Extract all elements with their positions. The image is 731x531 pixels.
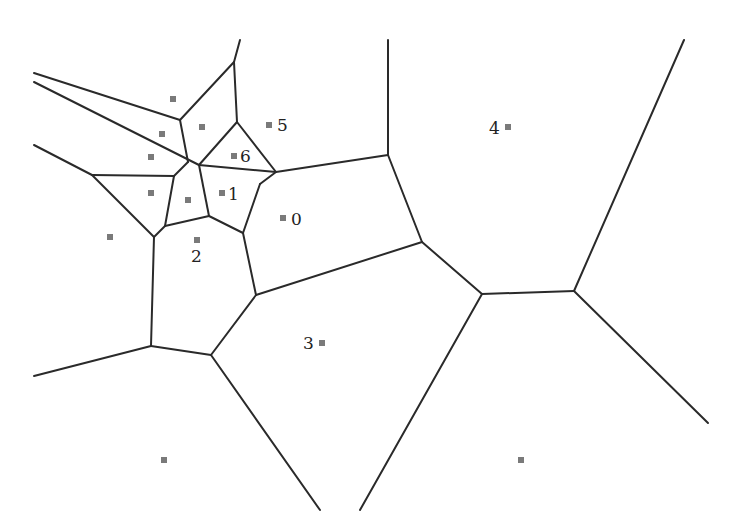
voronoi-edge xyxy=(154,226,165,237)
site-point xyxy=(170,96,176,102)
site-point xyxy=(280,215,286,221)
site-label: 0 xyxy=(291,209,302,229)
voronoi-edge xyxy=(276,155,388,172)
voronoi-edge xyxy=(482,291,574,294)
voronoi-edge xyxy=(211,295,256,355)
voronoi-edge xyxy=(180,62,234,120)
voronoi-edge xyxy=(174,162,188,176)
voronoi-edge xyxy=(165,176,174,226)
site-label: 4 xyxy=(489,118,500,138)
voronoi-edge xyxy=(92,175,174,176)
voronoi-edges xyxy=(34,40,708,510)
voronoi-edge xyxy=(256,242,422,295)
voronoi-edge xyxy=(199,165,276,172)
voronoi-edge xyxy=(234,40,240,62)
voronoi-edge xyxy=(34,145,92,175)
voronoi-edge xyxy=(34,73,180,120)
voronoi-edge xyxy=(243,184,260,233)
voronoi-edge xyxy=(34,346,151,376)
voronoi-edge xyxy=(165,216,209,226)
site-label: 6 xyxy=(240,146,251,166)
voronoi-edge xyxy=(360,294,482,510)
site-label: 2 xyxy=(191,246,202,266)
site-point xyxy=(505,124,511,130)
site-label: 3 xyxy=(303,333,314,353)
site-point xyxy=(266,122,272,128)
voronoi-edge xyxy=(199,165,209,216)
site-point xyxy=(219,190,225,196)
voronoi-edge xyxy=(260,172,276,184)
site-labels: 2615034 xyxy=(191,115,500,353)
voronoi-edge xyxy=(151,237,154,346)
voronoi-edge xyxy=(422,242,482,294)
site-point xyxy=(148,154,154,160)
voronoi-edge xyxy=(209,216,243,233)
site-label: 5 xyxy=(277,115,288,135)
site-point xyxy=(194,237,200,243)
voronoi-edge xyxy=(92,175,154,237)
site-point xyxy=(107,234,113,240)
voronoi-diagram: 2615034 xyxy=(0,0,731,531)
voronoi-edge xyxy=(243,233,256,295)
voronoi-edge xyxy=(211,355,320,510)
voronoi-edge xyxy=(151,346,211,355)
site-point xyxy=(185,197,191,203)
voronoi-edge xyxy=(34,82,199,165)
site-point xyxy=(231,153,237,159)
voronoi-edge xyxy=(574,291,708,423)
site-point xyxy=(319,340,325,346)
site-point xyxy=(161,457,167,463)
voronoi-edge xyxy=(388,155,422,242)
site-point xyxy=(199,124,205,130)
site-point xyxy=(159,131,165,137)
site-point xyxy=(148,190,154,196)
site-label: 1 xyxy=(228,184,239,204)
voronoi-edge xyxy=(574,40,684,291)
voronoi-edge xyxy=(234,62,237,122)
site-point xyxy=(518,457,524,463)
